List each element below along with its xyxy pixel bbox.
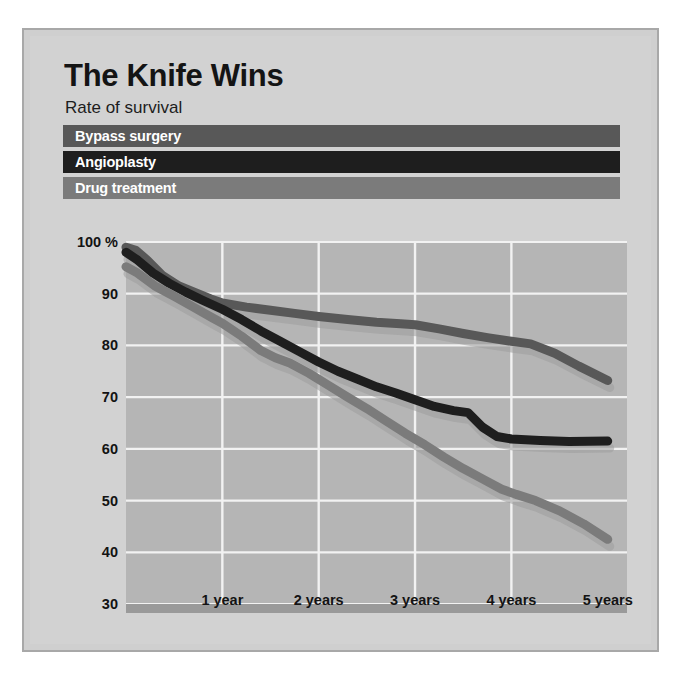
- x-axis-labels: 1 year2 years3 years4 years5 years: [30, 36, 651, 644]
- chart-figure: The Knife Wins Rate of survival Bypass s…: [22, 28, 659, 652]
- plot-area: 100 %90807060504030 1 year2 years3 years…: [30, 36, 651, 644]
- chart-panel: The Knife Wins Rate of survival Bypass s…: [30, 36, 651, 644]
- x-axis-tick: 4 years: [486, 592, 536, 608]
- x-axis-tick: 1 year: [201, 592, 243, 608]
- x-axis-tick: 3 years: [390, 592, 440, 608]
- x-axis-tick: 5 years: [583, 592, 633, 608]
- x-axis-tick: 2 years: [294, 592, 344, 608]
